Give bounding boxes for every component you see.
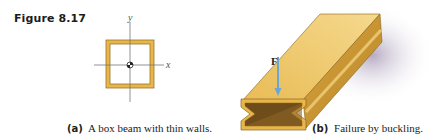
x-axis-label: x xyxy=(166,59,170,70)
caption-a-text: A box beam with thin walls. xyxy=(88,122,212,134)
y-axis-label: y xyxy=(128,12,132,23)
centroid-icon xyxy=(127,62,133,68)
caption-b-tag: (b) xyxy=(312,123,328,134)
force-label: F xyxy=(271,55,278,67)
caption-panel-b: (b) Failure by buckling. xyxy=(312,122,423,134)
panel-a-diagram xyxy=(0,0,436,139)
caption-a-tag: (a) xyxy=(67,123,83,134)
caption-panel-a: (a) A box beam with thin walls. xyxy=(67,122,212,134)
caption-b-text: Failure by buckling. xyxy=(334,122,423,134)
